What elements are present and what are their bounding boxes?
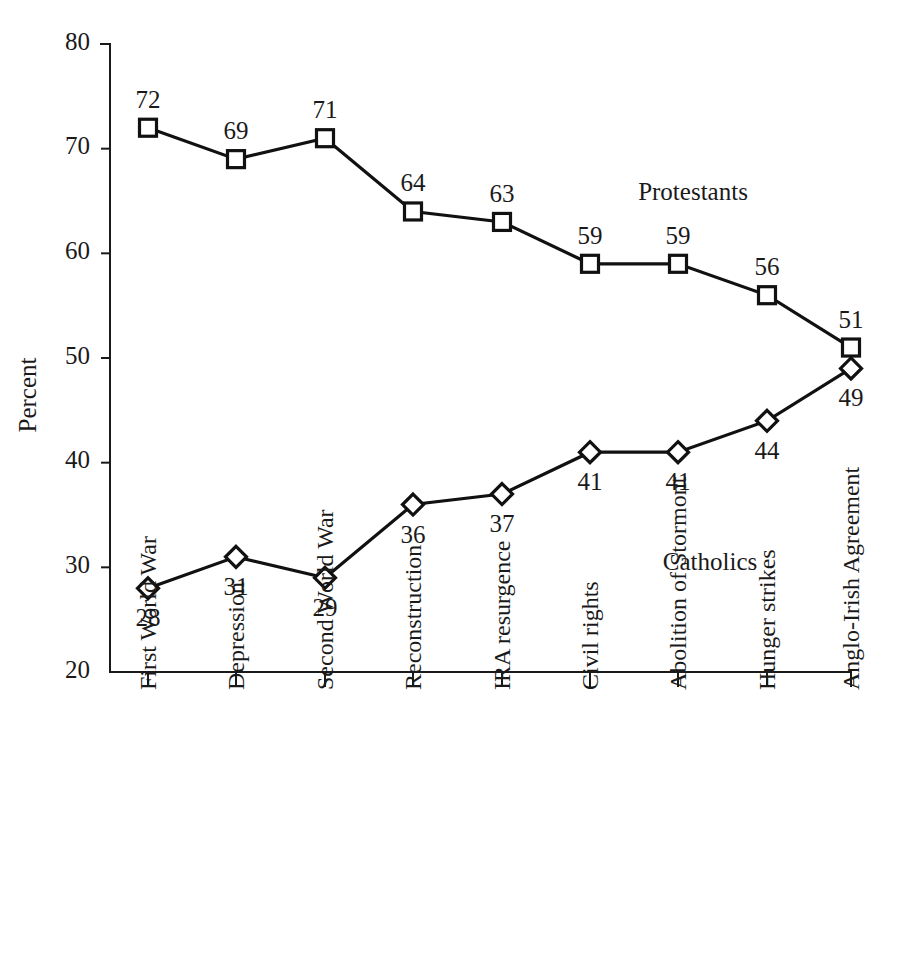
line-chart: 20304050607080 7269716463595956512831293… — [0, 0, 898, 961]
x-axis-line — [110, 672, 851, 681]
series-line-protestants — [148, 128, 851, 348]
y-tick-label: 30 — [65, 551, 90, 578]
x-category-label: First World War — [135, 536, 161, 690]
data-point-label: 69 — [224, 117, 249, 144]
data-point-label: 51 — [839, 306, 864, 333]
x-category-label: Hunger strikes — [754, 549, 780, 690]
x-category-label: Reconstruction — [400, 545, 426, 690]
data-point-square — [759, 287, 776, 304]
data-point-square — [582, 255, 599, 272]
data-point-label: 64 — [401, 169, 427, 196]
data-point-square — [843, 339, 860, 356]
chart-canvas: 20304050607080 7269716463595956512831293… — [0, 0, 898, 961]
data-point-square — [140, 119, 157, 136]
data-point-diamond — [492, 484, 513, 505]
y-axis-title: Percent — [14, 357, 41, 432]
x-category-label: Anglo-Irish Agreement — [838, 466, 864, 690]
data-point-label: 71 — [313, 96, 338, 123]
y-axis-tick-labels: 20304050607080 — [65, 28, 90, 683]
x-category-label: Depression — [223, 582, 249, 690]
x-category-label: Second World War — [312, 509, 338, 690]
data-point-label: 41 — [578, 468, 603, 495]
data-point-label: 49 — [839, 384, 864, 411]
y-tick-label: 80 — [65, 28, 90, 55]
series-label-protestants: Protestants — [638, 178, 748, 205]
data-point-diamond — [226, 546, 247, 567]
x-category-label: Civil rights — [577, 581, 603, 690]
data-point-square — [317, 130, 334, 147]
data-point-label: 59 — [666, 222, 691, 249]
data-point-square — [405, 203, 422, 220]
y-tick-label: 40 — [65, 446, 90, 473]
data-point-label: 44 — [755, 437, 781, 464]
x-category-label: IRA resurgence — [489, 540, 515, 690]
data-point-label: 56 — [755, 253, 780, 280]
y-tick-label: 60 — [65, 237, 90, 264]
x-category-label: Abolition of Stormont — [665, 476, 691, 690]
data-point-diamond — [580, 442, 601, 463]
data-point-label: 72 — [136, 86, 161, 113]
data-point-diamond — [757, 410, 778, 431]
data-point-label: 37 — [490, 510, 515, 537]
data-point-label: 63 — [490, 180, 515, 207]
y-tick-label: 70 — [65, 132, 90, 159]
data-point-diamond — [668, 442, 689, 463]
data-point-square — [228, 151, 245, 168]
data-point-square — [494, 213, 511, 230]
data-point-label: 59 — [578, 222, 603, 249]
y-axis-ticks — [101, 149, 110, 568]
y-tick-label: 20 — [65, 656, 90, 683]
data-point-diamond — [841, 358, 862, 379]
data-point-square — [670, 255, 687, 272]
y-tick-label: 50 — [65, 342, 90, 369]
data-point-label: 36 — [401, 521, 426, 548]
